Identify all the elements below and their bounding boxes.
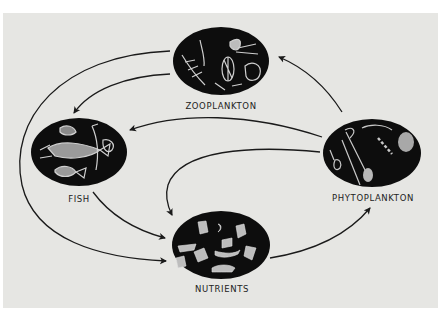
arrow-phytoplankton-to-fish xyxy=(130,118,322,137)
arrow-phytoplankton-to-nutrients xyxy=(167,149,320,215)
node-phytoplankton xyxy=(323,119,421,187)
node-fish xyxy=(31,118,127,186)
food-cycle-diagram xyxy=(0,0,443,313)
label-zooplankton: ZOOPLANKTON xyxy=(185,101,256,111)
label-nutrients: NUTRIENTS xyxy=(195,284,249,294)
node-nutrients xyxy=(172,211,270,279)
label-phytoplankton: PHYTOPLANKTON xyxy=(332,193,414,203)
arrow-nutrients-to-phytoplankton xyxy=(270,208,370,258)
label-fish: FISH xyxy=(68,194,90,204)
arrow-phytoplankton-to-zooplankton xyxy=(279,57,342,112)
node-zooplankton xyxy=(173,27,269,95)
arrow-fish-to-nutrients xyxy=(93,192,165,238)
arrow-zooplankton-to-fish xyxy=(74,74,170,113)
